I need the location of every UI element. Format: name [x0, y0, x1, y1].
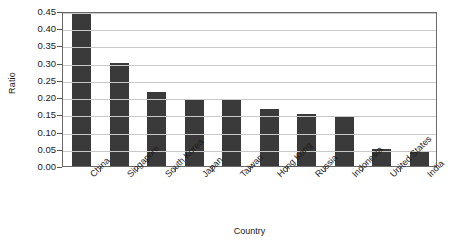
gridline	[63, 30, 436, 31]
y-axis-tick-label: 0.45	[38, 7, 57, 17]
y-axis-tick-mark	[57, 133, 62, 134]
y-axis-tick-mark	[57, 12, 62, 13]
x-axis-category-label: United States	[388, 172, 395, 179]
y-axis-tick-mark	[57, 81, 62, 82]
y-axis-tick-mark	[57, 150, 62, 151]
gridline	[63, 116, 436, 117]
bar	[222, 99, 241, 166]
gridline	[63, 47, 436, 48]
bar-chart: Ratio 0.000.050.100.150.200.250.300.350.…	[0, 0, 458, 248]
x-axis-tick-mark	[400, 167, 401, 172]
y-axis-tick-label: 0.20	[38, 93, 57, 103]
gridline	[63, 82, 436, 83]
y-axis-tick-mark	[57, 29, 62, 30]
x-axis-category-label: Japan	[200, 172, 207, 179]
y-axis-tick-label: 0.15	[38, 110, 57, 120]
x-axis-category-label: Singapore	[125, 172, 132, 179]
y-axis-title: Ratio	[7, 53, 17, 113]
x-axis-category-label: Hong Kong	[275, 172, 282, 179]
y-axis-tick-label: 0.25	[38, 76, 57, 86]
x-axis-tick-mark	[100, 167, 101, 172]
x-axis-title: Country	[62, 226, 437, 236]
y-axis-tick-mark	[57, 167, 62, 168]
gridline	[63, 99, 436, 100]
y-axis-tick-labels: 0.000.050.100.150.200.250.300.350.400.45	[18, 12, 56, 167]
gridline	[63, 134, 436, 135]
gridline	[63, 13, 436, 14]
x-axis-tick-mark	[325, 167, 326, 172]
gridline	[63, 65, 436, 66]
bars-layer	[63, 13, 436, 166]
x-axis-category-label: Indonesia	[350, 172, 357, 179]
x-axis-category-label: South Korea	[163, 172, 170, 179]
y-axis-tick-mark	[57, 115, 62, 116]
y-axis-tick-mark	[57, 64, 62, 65]
x-axis-tick-mark	[250, 167, 251, 172]
y-axis-tick-label: 0.00	[38, 162, 57, 172]
x-axis-category-label: China	[88, 172, 95, 179]
bar	[72, 14, 91, 166]
x-axis-tick-mark	[175, 167, 176, 172]
x-axis-tick-mark	[287, 167, 288, 172]
x-axis-tick-mark	[137, 167, 138, 172]
y-axis-tick-mark	[57, 46, 62, 47]
y-axis-tick-label: 0.40	[38, 24, 57, 34]
y-axis-tick-label: 0.05	[38, 145, 57, 155]
x-axis-category-label: India	[425, 172, 432, 179]
x-axis-category-labels: ChinaSingaporeSouth KoreaJapanTaiwanHong…	[62, 172, 437, 220]
x-axis-category-label: Taiwan	[238, 172, 245, 179]
x-axis-category-label: Russia	[313, 172, 320, 179]
y-axis-tick-label: 0.30	[38, 59, 57, 69]
x-axis-tick-mark	[212, 167, 213, 172]
x-axis-tick-mark	[362, 167, 363, 172]
y-axis-tick-label: 0.35	[38, 41, 57, 51]
y-axis-tick-label: 0.10	[38, 128, 57, 138]
plot-area	[62, 12, 437, 167]
y-axis-tick-mark	[57, 98, 62, 99]
